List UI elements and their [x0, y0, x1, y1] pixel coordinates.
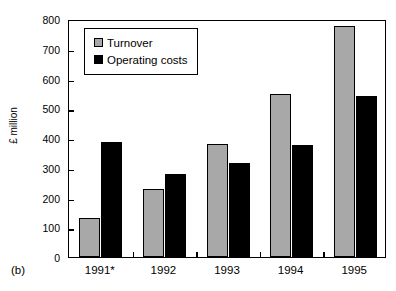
y-axis-tick — [69, 170, 74, 171]
x-axis-tick-label: 1991* — [85, 264, 115, 277]
chart-legend: Turnover Operating costs — [84, 28, 198, 75]
x-axis-tick — [196, 252, 197, 257]
panel-caption: (b) — [11, 264, 25, 277]
legend-label-operating-costs: Operating costs — [107, 54, 188, 66]
x-axis-tick-label: 1993 — [214, 264, 240, 277]
y-axis-tick-labels: 0100200300400500600700800 — [28, 0, 60, 291]
y-axis-tick — [69, 229, 74, 230]
bar-operating-costs-1991 — [101, 142, 122, 257]
y-axis-tick-label: 400 — [28, 134, 60, 144]
y-axis-tick-label: 300 — [28, 164, 60, 174]
bar-turnover-1993 — [207, 144, 228, 257]
x-axis-tick — [133, 252, 134, 257]
x-axis-tick-label: 1992 — [151, 264, 177, 277]
y-axis-tick-label: 800 — [28, 15, 60, 25]
legend-swatch-turnover-icon — [94, 38, 103, 47]
y-axis-tick — [69, 110, 74, 111]
legend-label-turnover: Turnover — [107, 37, 153, 49]
bar-operating-costs-1995 — [356, 96, 377, 257]
bar-chart-figure: £ million 0100200300400500600700800 Turn… — [0, 0, 396, 291]
x-axis-tick — [323, 252, 324, 257]
bar-operating-costs-1994 — [292, 145, 313, 257]
bar-turnover-1991 — [79, 218, 100, 257]
x-axis-tick-label: 1994 — [278, 264, 304, 277]
y-axis-tick-label: 100 — [28, 223, 60, 233]
y-axis-tick — [69, 140, 74, 141]
legend-item-operating-costs: Operating costs — [94, 51, 188, 68]
bar-turnover-1995 — [334, 26, 355, 257]
y-axis-tick-label: 600 — [28, 75, 60, 85]
bar-turnover-1994 — [270, 94, 291, 257]
bar-operating-costs-1993 — [229, 163, 250, 257]
y-axis-title: £ million — [8, 76, 19, 176]
bar-operating-costs-1992 — [165, 174, 186, 257]
y-axis-tick-label: 700 — [28, 45, 60, 55]
y-axis-tick-label: 200 — [28, 194, 60, 204]
x-axis-tick-labels: 1991*1992199319941995 — [68, 264, 386, 284]
x-axis-tick — [260, 252, 261, 257]
y-axis-tick — [69, 81, 74, 82]
legend-swatch-operating-costs-icon — [94, 55, 103, 64]
y-axis-tick — [69, 51, 74, 52]
y-axis-tick — [69, 200, 74, 201]
y-axis-tick-label: 500 — [28, 104, 60, 114]
legend-item-turnover: Turnover — [94, 34, 188, 51]
bar-turnover-1992 — [143, 189, 164, 257]
y-axis-tick-label: 0 — [28, 253, 60, 263]
x-axis-tick-label: 1995 — [341, 264, 367, 277]
